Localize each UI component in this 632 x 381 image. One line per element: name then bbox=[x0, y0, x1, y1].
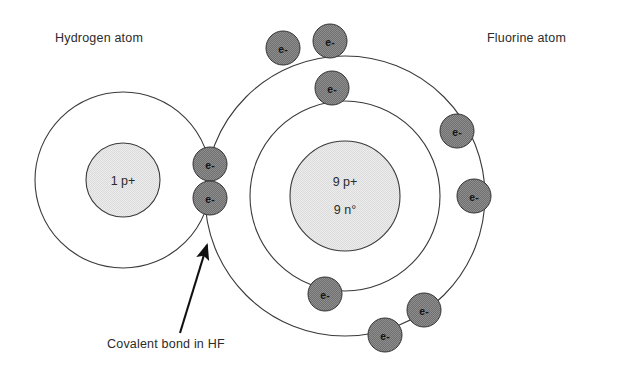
fluorine-nucleus-neutrons-label: 9 n° bbox=[334, 203, 356, 217]
svg-text:e-: e- bbox=[325, 36, 335, 48]
covalent-bond-arrow bbox=[180, 245, 207, 333]
fluorine-nucleus-protons-label: 9 p+ bbox=[333, 175, 358, 189]
svg-text:e-: e- bbox=[380, 330, 390, 342]
electron-f-outer-1[interactable]: e- bbox=[266, 31, 300, 65]
svg-text:e-: e- bbox=[205, 159, 215, 171]
electron-f-inner-top[interactable]: e- bbox=[315, 71, 349, 105]
electron-f-outer-6[interactable]: e- bbox=[368, 318, 402, 352]
svg-text:e-: e- bbox=[327, 83, 337, 95]
electron-f-outer-5[interactable]: e- bbox=[407, 293, 441, 327]
svg-text:e-: e- bbox=[320, 289, 330, 301]
hydrogen-atom-group: 1 p+ bbox=[35, 92, 211, 268]
svg-text:e-: e- bbox=[419, 305, 429, 317]
electron-f-outer-4[interactable]: e- bbox=[457, 179, 491, 213]
hf-covalent-bond-diagram: 1 p+ 9 p+ 9 n° e- e- e- bbox=[0, 0, 632, 381]
hydrogen-nucleus-label: 1 p+ bbox=[111, 174, 136, 188]
electron-bond-lower[interactable]: e- bbox=[193, 181, 227, 215]
electron-f-inner-bottom[interactable]: e- bbox=[308, 277, 342, 311]
electron-f-outer-3[interactable]: e- bbox=[440, 114, 474, 148]
hydrogen-atom-label: Hydrogen atom bbox=[55, 31, 143, 45]
electron-bond-upper[interactable]: e- bbox=[193, 147, 227, 181]
atomic-diagram-canvas: 1 p+ 9 p+ 9 n° e- e- e- bbox=[0, 0, 632, 381]
fluorine-atom-label: Fluorine atom bbox=[487, 31, 566, 45]
svg-text:e-: e- bbox=[469, 191, 479, 203]
covalent-bond-caption: Covalent bond in HF bbox=[107, 337, 225, 351]
svg-text:e-: e- bbox=[278, 43, 288, 55]
fluorine-nucleus bbox=[290, 141, 400, 251]
svg-text:e-: e- bbox=[205, 193, 215, 205]
svg-text:e-: e- bbox=[452, 126, 462, 138]
electron-f-outer-2[interactable]: e- bbox=[313, 24, 347, 58]
